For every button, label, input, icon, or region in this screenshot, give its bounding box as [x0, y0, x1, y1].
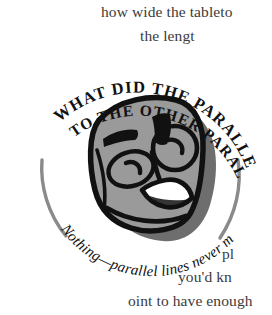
- curved-rule-left-icon: [42, 160, 66, 236]
- joke-illustration: WHAT DID THE PARALLEL LINE SAY TO THE OT…: [0, 0, 272, 315]
- book-page-graphic: how wide the tableto the lengt pl you'd …: [0, 0, 272, 315]
